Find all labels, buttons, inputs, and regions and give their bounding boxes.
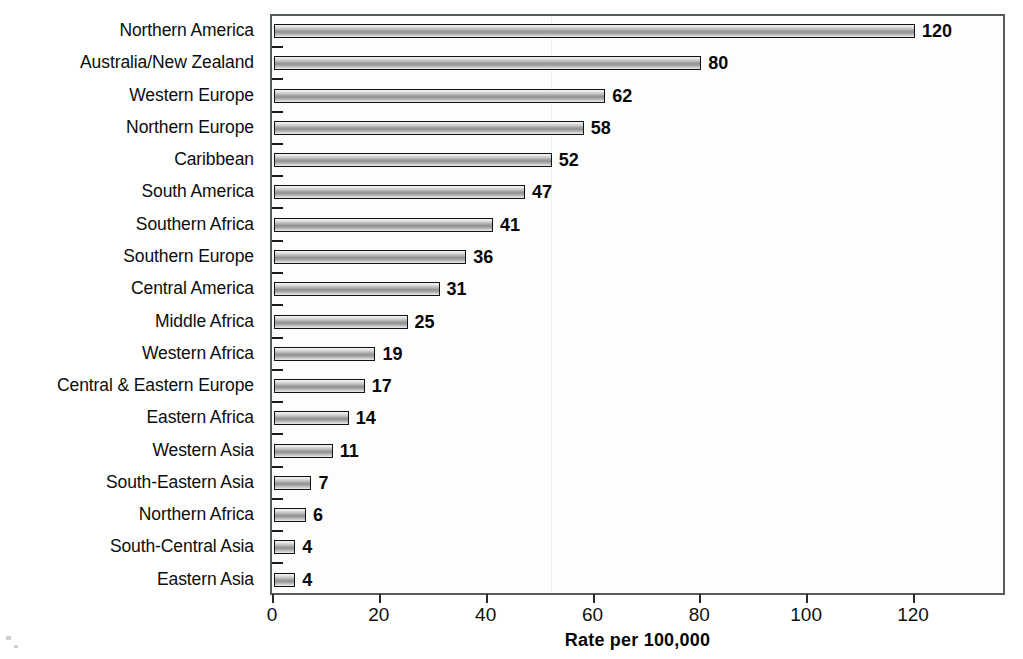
x-axis-tick-label: 0 [267, 604, 278, 626]
y-axis-label: Central & Eastern Europe [57, 369, 254, 401]
x-axis-tick [593, 594, 595, 603]
chart-figure: Northern America Australia/New Zealand W… [0, 0, 1023, 659]
x-axis-tick-label: 20 [368, 604, 389, 626]
bar-row: 4 [272, 532, 1003, 564]
bar-row: 11 [272, 436, 1003, 468]
y-axis-label: Northern Europe [126, 111, 254, 143]
bar-value-label: 62 [612, 87, 632, 105]
y-axis-category-labels: Northern America Australia/New Zealand W… [0, 14, 262, 595]
bar [274, 315, 408, 329]
bar-row: 62 [272, 81, 1003, 113]
bar [274, 379, 365, 393]
bar-row: 52 [272, 145, 1003, 177]
bar-value-label: 17 [372, 377, 392, 395]
bar-row: 47 [272, 177, 1003, 209]
bar-row: 80 [272, 48, 1003, 80]
bar-row: 19 [272, 339, 1003, 371]
scan-speckle [14, 645, 18, 648]
x-axis-tick-labels: 020406080100120 [270, 604, 1005, 628]
bar-value-label: 120 [922, 22, 952, 40]
bar-value-label: 11 [340, 442, 359, 460]
bar [274, 508, 306, 522]
bar [274, 411, 349, 425]
y-axis-label: Northern Africa [139, 498, 254, 530]
x-axis-title: Rate per 100,000 [270, 630, 1005, 651]
y-axis-label: Middle Africa [155, 305, 254, 337]
x-axis-tick-label: 40 [475, 604, 496, 626]
bar-value-label: 19 [382, 345, 402, 363]
bar-value-label: 47 [532, 183, 552, 201]
bar [274, 89, 605, 103]
bar-value-label: 36 [473, 248, 493, 266]
x-axis-tick [272, 594, 274, 603]
y-axis-label: Western Europe [129, 79, 254, 111]
bar-row: 6 [272, 500, 1003, 532]
x-axis-tick-label: 80 [689, 604, 710, 626]
y-axis-label: Southern Europe [123, 240, 254, 272]
y-axis-label: Central America [131, 272, 254, 304]
bar-row: 36 [272, 242, 1003, 274]
bar [274, 476, 311, 490]
x-axis-ticks [270, 595, 1005, 604]
y-axis-label: Australia/New Zealand [80, 46, 254, 78]
y-axis-label: Western Asia [152, 434, 254, 466]
bar-row: 17 [272, 371, 1003, 403]
bar-value-label: 14 [356, 409, 376, 427]
bar [274, 282, 440, 296]
bar-row: 58 [272, 113, 1003, 145]
x-axis-tick [379, 594, 381, 603]
bar-value-label: 58 [591, 119, 611, 137]
y-axis-label: South America [141, 175, 254, 207]
bar [274, 573, 295, 587]
scan-speckle [6, 636, 11, 640]
bar [274, 56, 701, 70]
y-axis-label: South-Eastern Asia [106, 466, 254, 498]
y-axis-label: South-Central Asia [110, 530, 254, 562]
bar-row: 4 [272, 565, 1003, 597]
bar-row: 41 [272, 210, 1003, 242]
bar-value-label: 31 [447, 280, 467, 298]
y-axis-label: Eastern Africa [146, 401, 254, 433]
bar-value-label: 25 [415, 313, 435, 331]
y-axis-label: Northern America [119, 14, 254, 46]
bar-row: 31 [272, 274, 1003, 306]
bar-row: 25 [272, 307, 1003, 339]
bar-value-label: 4 [302, 571, 312, 589]
y-axis-label: Western Africa [142, 337, 254, 369]
bar-value-label: 41 [500, 216, 520, 234]
bar [274, 250, 466, 264]
bar-value-label: 52 [559, 151, 579, 169]
bar [274, 444, 333, 458]
bar [274, 218, 493, 232]
bar-row: 120 [272, 16, 1003, 48]
bar-value-label: 4 [302, 538, 312, 556]
bar [274, 347, 375, 361]
x-axis-tick-label: 60 [582, 604, 603, 626]
x-axis-tick [486, 594, 488, 603]
x-axis-tick [699, 594, 701, 603]
x-axis-tick-label: 120 [897, 604, 929, 626]
bar-row: 14 [272, 403, 1003, 435]
bar [274, 24, 915, 38]
x-axis-tick-label: 100 [790, 604, 822, 626]
bar-value-label: 6 [313, 506, 323, 524]
x-axis-tick [806, 594, 808, 603]
bar-value-label: 7 [318, 474, 328, 492]
bar [274, 185, 525, 199]
x-axis-tick [913, 594, 915, 603]
bar-row: 7 [272, 468, 1003, 500]
bar-value-label: 80 [708, 54, 728, 72]
y-axis-label: Southern Africa [136, 208, 254, 240]
bar [274, 121, 584, 135]
y-axis-label: Caribbean [174, 143, 254, 175]
plot-area: 120 80 62 58 52 47 4 [270, 14, 1005, 595]
bar [274, 153, 552, 167]
y-axis-label: Eastern Asia [157, 563, 254, 595]
bar [274, 540, 295, 554]
